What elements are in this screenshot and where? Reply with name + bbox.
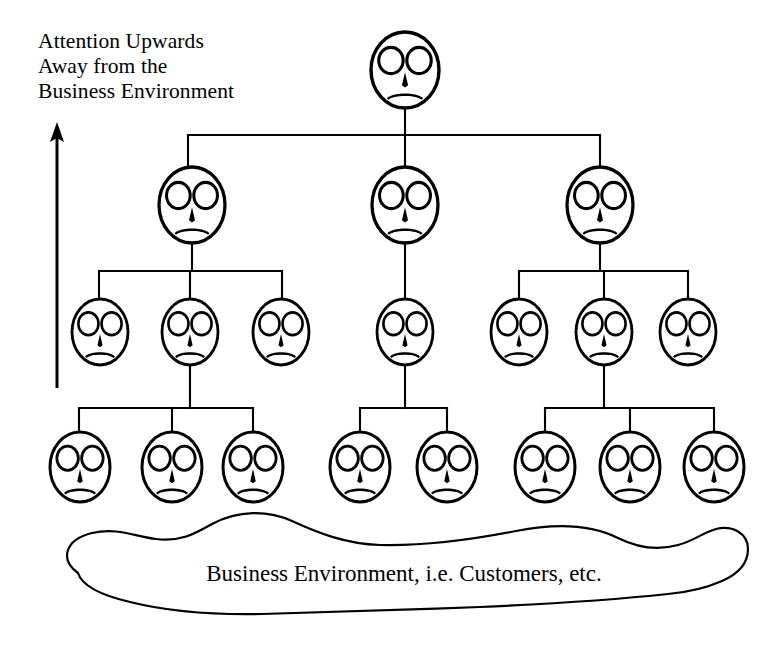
sad-face-node-3-2 <box>162 299 218 365</box>
sad-face-node-1-1 <box>371 32 439 108</box>
organisation-chart-diagram: Attention Upwards Away from the Business… <box>0 0 778 653</box>
sad-face-node-4-4 <box>330 432 390 502</box>
title-line-3: Business Environment <box>38 79 234 103</box>
sad-face-node-2-2 <box>372 167 438 243</box>
sad-face-node-4-3 <box>223 432 283 502</box>
sad-face-node-3-1 <box>72 299 128 365</box>
sad-face-node-4-6 <box>515 432 575 502</box>
upward-arrow <box>50 122 64 388</box>
sad-face-node-3-7 <box>660 299 716 365</box>
title-line-1: Attention Upwards <box>38 29 204 53</box>
sad-face-node-4-1 <box>50 432 110 502</box>
sad-face-node-2-3 <box>567 167 633 243</box>
sad-face-node-3-6 <box>576 299 632 365</box>
sad-face-node-3-3 <box>253 299 309 365</box>
sad-face-node-3-4 <box>377 299 433 365</box>
tree-connectors <box>79 110 714 433</box>
sad-face-node-3-5 <box>491 299 547 365</box>
sad-face-node-4-7 <box>600 432 660 502</box>
page-title: Attention Upwards Away from the Business… <box>38 29 234 103</box>
sad-face-node-4-2 <box>142 432 202 502</box>
title-line-2: Away from the <box>38 54 167 78</box>
sad-face-node-4-8 <box>684 432 744 502</box>
sad-face-node-2-1 <box>159 167 225 243</box>
blob-label: Business Environment, i.e. Customers, et… <box>206 561 601 586</box>
business-environment-blob: Business Environment, i.e. Customers, et… <box>67 513 748 614</box>
sad-face-node-4-5 <box>417 432 477 502</box>
